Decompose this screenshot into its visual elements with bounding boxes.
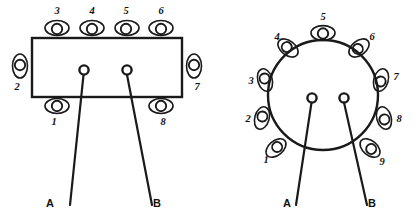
pin-1-label: 1 xyxy=(51,116,56,127)
pin-2-label: 2 xyxy=(13,81,20,92)
lead-b-label: B xyxy=(153,197,161,209)
pin-5-label: 5 xyxy=(123,5,128,16)
pin-5[interactable] xyxy=(311,26,335,41)
pin-5-label: 5 xyxy=(320,11,325,22)
socket-body-rectangle xyxy=(32,38,182,97)
rectangular-socket-diagram: 3 4 5 6 2 7 1 8 A B xyxy=(13,5,202,209)
pin-3[interactable] xyxy=(255,67,275,93)
pin-2[interactable] xyxy=(13,54,28,78)
pin-4-label: 4 xyxy=(88,5,94,16)
lead-wire-b xyxy=(127,75,152,205)
pin-1-label: 1 xyxy=(263,154,268,165)
pin-8-label: 8 xyxy=(160,116,166,127)
lead-wire-a xyxy=(296,103,312,205)
pin-8[interactable] xyxy=(149,99,173,114)
lead-b-label: B xyxy=(368,197,376,209)
pin-7-label: 7 xyxy=(194,81,200,92)
terminal-a-contact[interactable] xyxy=(307,93,316,102)
terminal-b-contact[interactable] xyxy=(122,65,131,74)
pin-3-label: 3 xyxy=(247,75,253,86)
pin-4-label: 4 xyxy=(273,31,279,42)
pin-1[interactable] xyxy=(45,99,69,114)
pin-4[interactable] xyxy=(80,21,104,36)
lead-a-label: A xyxy=(283,197,291,209)
pin-9-label: 9 xyxy=(379,156,385,167)
socket-diagrams-svg: 3 4 5 6 2 7 1 8 A B xyxy=(0,0,420,224)
pin-2-label: 2 xyxy=(244,113,251,124)
pin-8-label: 8 xyxy=(396,113,402,124)
terminal-a-contact[interactable] xyxy=(79,65,88,74)
lead-wire-b xyxy=(344,103,367,205)
pin-3-label: 3 xyxy=(53,5,59,16)
pin-6-label: 6 xyxy=(158,5,164,16)
pin-3[interactable] xyxy=(45,21,69,36)
circular-socket-diagram: 1 2 3 4 5 6 7 8 9 A B xyxy=(244,11,402,209)
lead-a-label: A xyxy=(46,197,54,209)
pin-7-label: 7 xyxy=(393,71,399,82)
pin-7[interactable] xyxy=(187,54,202,78)
socket-body-circle xyxy=(268,40,378,150)
pin-7[interactable] xyxy=(371,67,391,93)
lead-wire-a xyxy=(70,75,84,205)
pin-6-label: 6 xyxy=(369,31,375,42)
diagram-canvas: 3 4 5 6 2 7 1 8 A B xyxy=(0,0,420,224)
pin-5[interactable] xyxy=(115,21,139,36)
terminal-b-contact[interactable] xyxy=(339,93,348,102)
pin-6[interactable] xyxy=(149,21,173,36)
